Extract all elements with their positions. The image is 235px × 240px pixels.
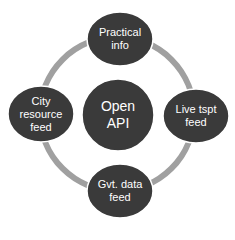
node-label-line: City (32, 95, 51, 108)
node-gvt-data-feed: Gvt. data feed (87, 174, 153, 208)
node-label-line: Live tspt (176, 103, 217, 116)
node-label-line: info (111, 39, 129, 52)
node-label-line: feed (30, 121, 51, 134)
center-label-line1: Open (101, 98, 135, 115)
node-city-resource-feed: City resource feed (8, 93, 74, 135)
center-label: Open API (82, 92, 154, 138)
node-label-line: feed (185, 116, 206, 129)
node-label-line: Practical (99, 26, 141, 39)
node-label-line: resource (20, 108, 63, 121)
node-label-line: feed (109, 191, 130, 204)
center-label-line2: API (107, 115, 130, 132)
node-practical-info: Practical info (87, 22, 153, 56)
node-live-tspt-feed: Live tspt feed (163, 99, 229, 133)
node-label-line: Gvt. data (98, 178, 143, 191)
